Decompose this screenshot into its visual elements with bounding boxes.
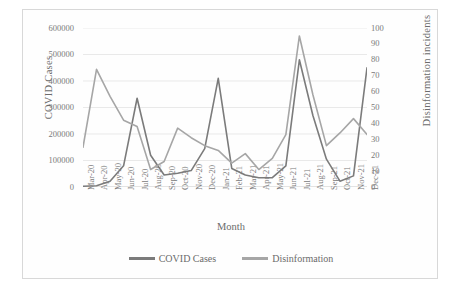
chart-figure: COVID Cases Disinformation incidents Mon… [22, 9, 438, 279]
y-axis-right-tick-label: 100 [371, 24, 397, 33]
legend-swatch-icon [129, 257, 155, 260]
y-axis-left-tick-label: 400000 [14, 77, 74, 86]
series-line-covid-cases [83, 60, 367, 186]
y-axis-right-tick-label: 70 [371, 71, 397, 80]
legend-label: COVID Cases [159, 253, 217, 264]
series-line-disinformation [83, 36, 367, 170]
legend-swatch-icon [242, 257, 268, 260]
y-axis-left-tick-label: 0 [14, 183, 74, 192]
y-axis-right-title: Disinformation incidents [421, 1, 432, 141]
plot-area [83, 28, 367, 187]
y-axis-right-tick-label: 90 [371, 39, 397, 48]
y-axis-left-tick-label: 500000 [14, 50, 74, 59]
y-axis-right-tick-label: 20 [371, 151, 397, 160]
y-axis-right-tick-label: 60 [371, 87, 397, 96]
y-axis-left-tick-label: 200000 [14, 130, 74, 139]
legend-item[interactable]: Disinformation [242, 253, 333, 264]
y-axis-right-tick-label: 40 [371, 119, 397, 128]
x-axis-title: Month [23, 221, 439, 232]
y-axis-right-tick-label: 80 [371, 55, 397, 64]
legend-item[interactable]: COVID Cases [129, 253, 217, 264]
x-axis-tick-label: Dec-21 [371, 165, 380, 190]
series-lines [83, 36, 367, 186]
y-axis-left-tick-label: 600000 [14, 24, 74, 33]
legend-label: Disinformation [272, 253, 333, 264]
chart-canvas [83, 28, 367, 187]
y-axis-right-tick-label: 50 [371, 103, 397, 112]
y-axis-left-tick-label: 300000 [14, 103, 74, 112]
chart-legend: COVID CasesDisinformation [23, 253, 439, 264]
y-axis-left-tick-label: 100000 [14, 156, 74, 165]
y-axis-right-tick-label: 30 [371, 135, 397, 144]
gridlines [83, 28, 367, 187]
